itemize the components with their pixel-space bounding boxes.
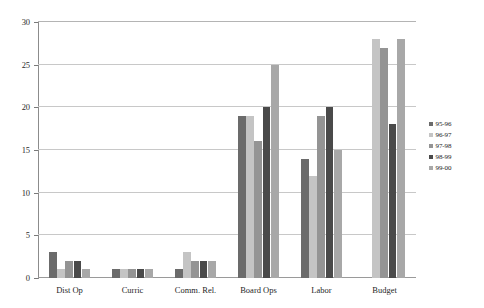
legend-item: 96-97 [429,130,481,140]
bar [326,107,334,278]
x-tick-label: Comm. Rel. [164,286,227,295]
legend-item: 97-98 [429,141,481,151]
x-tick-label: Curric [101,286,164,295]
bar [263,107,271,278]
y-tick-mark-30 [34,22,38,23]
bar [238,116,246,278]
legend-swatch-icon [429,144,433,148]
bar [334,150,342,278]
bar [208,261,216,278]
bar [137,269,145,278]
legend-label: 95-96 [436,121,452,128]
legend-label: 96-97 [436,132,452,139]
y-tick-label-20: 20 [2,103,30,112]
legend-swatch-icon [429,155,433,159]
bar [389,124,397,278]
x-tick-label: Board Ops [227,286,290,295]
chart-legend: 95-9696-9797-9898-9999-00 [429,119,481,174]
bar-group [364,22,405,278]
bar-group [175,22,216,278]
bar [82,269,90,278]
bar [301,159,309,278]
bar [128,269,136,278]
bar [309,176,317,278]
bar [397,39,405,278]
grid-line-0 [38,277,416,278]
legend-swatch-icon [429,166,433,170]
bar [372,39,380,278]
y-tick-label-25: 25 [2,61,30,70]
y-tick-label-10: 10 [2,189,30,198]
bar [380,48,388,278]
bar [145,269,153,278]
legend-label: 97-98 [436,143,452,150]
bar [65,261,73,278]
bar [191,261,199,278]
bar [57,269,65,278]
y-tick-mark-5 [34,235,38,236]
bar [112,269,120,278]
y-tick-label-0: 0 [2,274,30,283]
bar [183,252,191,278]
y-tick-mark-20 [34,107,38,108]
bar [317,116,325,278]
legend-item: 98-99 [429,152,481,162]
legend-label: 98-99 [436,154,452,161]
y-tick-mark-10 [34,193,38,194]
x-tick-label: Dist Op [38,286,101,295]
bar [120,269,128,278]
grid-line-5 [38,234,416,235]
bar [175,269,183,278]
grid-line-10 [38,192,416,193]
bar-group [301,22,342,278]
legend-swatch-icon [429,133,433,137]
y-tick-mark-0 [34,278,38,279]
bar [49,252,57,278]
bar-group [49,22,90,278]
y-tick-label-5: 5 [2,231,30,240]
grid-line-15 [38,149,416,150]
bar-chart-figure: 051015202530 Dist OpCurricComm. Rel.Boar… [0,0,484,308]
legend-swatch-icon [429,122,433,126]
y-tick-mark-25 [34,65,38,66]
grid-line-25 [38,64,416,65]
bar-group [112,22,153,278]
y-tick-mark-15 [34,150,38,151]
legend-label: 99-00 [436,165,452,172]
bar [254,141,262,278]
legend-item: 95-96 [429,119,481,129]
legend-item: 99-00 [429,163,481,173]
x-tick-label: Budget [353,286,416,295]
bar-group [238,22,279,278]
bar [200,261,208,278]
x-tick-label: Labor [290,286,353,295]
y-tick-label-30: 30 [2,18,30,27]
grid-line-20 [38,106,416,107]
bar [74,261,82,278]
bar [246,116,254,278]
grid-line-30 [38,21,416,22]
plot-area [38,22,416,278]
bar [271,65,279,278]
y-tick-label-15: 15 [2,146,30,155]
